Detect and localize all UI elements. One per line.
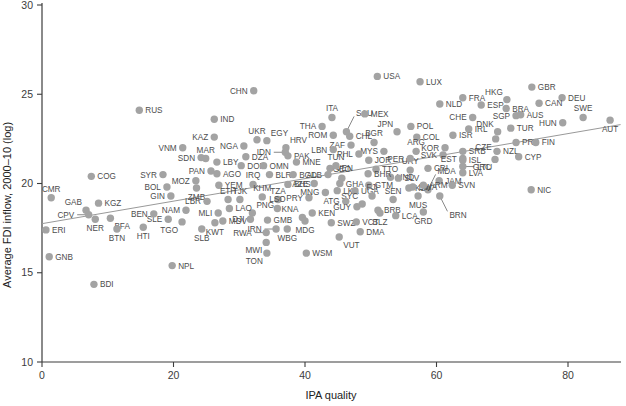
data-point-nzl [493, 148, 500, 155]
data-point-kaz [211, 133, 218, 140]
data-point-blr [266, 171, 273, 178]
data-point-can [535, 99, 542, 106]
country-label-dji: DJI [232, 215, 244, 224]
country-label-moz: MOZ [172, 177, 190, 186]
data-point-guy [353, 203, 360, 210]
data-point-pol [407, 123, 414, 130]
country-label-bhs: BHS [294, 180, 311, 189]
y-tick-label: 30 [21, 0, 33, 11]
data-point-cmr [48, 194, 55, 201]
data-point-phl [355, 150, 362, 157]
data-point-syr [159, 171, 166, 178]
country-label-lao: LAO [235, 204, 251, 213]
data-point-isl [459, 157, 466, 164]
data-point-lux [416, 78, 423, 85]
country-label-lux: LUX [426, 78, 442, 87]
data-point-bhr [364, 170, 371, 177]
country-label-fra: FRA [469, 94, 486, 103]
data-point-bgd [289, 171, 296, 178]
data-point-gnb [46, 253, 53, 260]
data-point-alb [324, 171, 331, 178]
x-tick-label: 40 [299, 369, 311, 381]
country-label-isr: ISR [459, 131, 473, 140]
country-label-egy: EGY [271, 129, 289, 138]
data-point-mwi [263, 239, 270, 246]
data-point-nld [436, 100, 443, 107]
country-label-est: EST [441, 155, 457, 164]
data-point-eth [224, 196, 231, 203]
country-label-kgz: KGZ [105, 199, 122, 208]
x-axis-title: IPA quality [305, 389, 357, 401]
country-label-sgp: SGP [493, 112, 511, 121]
country-label-blz: BLZ [372, 218, 387, 227]
scatter-chart-figure: 1015202530020406080 ERIGNBCMRGABCPVCOGKG… [0, 0, 626, 406]
data-point-cze [492, 135, 499, 142]
country-label-cpv: CPV [57, 211, 74, 220]
data-point-fin [532, 139, 539, 146]
country-label-pan: PAN [189, 167, 205, 176]
y-tick-label: 25 [21, 88, 33, 100]
country-label-gnb: GNB [55, 253, 73, 262]
country-label-tza: TZA [270, 187, 286, 196]
country-label-hrv: HRV [290, 136, 308, 145]
data-point-ury [407, 166, 414, 173]
data-point-grc [491, 156, 498, 163]
data-point-hrv [282, 144, 289, 151]
country-label-cog: COG [97, 172, 116, 181]
country-label-phl: PHL [337, 150, 353, 159]
country-label-pol: POL [417, 122, 434, 131]
country-label-kor: KOR [421, 144, 439, 153]
country-label-mne: MNE [302, 158, 321, 167]
country-label-hti: HTI [137, 232, 150, 241]
country-label-cri: CRI [434, 164, 448, 173]
country-label-mex: MEX [371, 110, 389, 119]
country-label-wbg: WBG [277, 234, 297, 243]
data-point-ind [211, 116, 218, 123]
data-point-gmb [264, 216, 271, 223]
data-point-mex [361, 110, 368, 117]
x-tick-label: 60 [431, 369, 443, 381]
x-tick-label: 20 [168, 369, 180, 381]
country-label-khm: KHM [253, 184, 271, 193]
country-label-jpn: JPN [378, 120, 394, 129]
country-label-aut: AUT [602, 125, 618, 134]
country-label-rus: RUS [145, 106, 163, 115]
data-point-tun [332, 162, 339, 169]
country-label-ton: TON [246, 257, 263, 266]
data-point-dnk [494, 128, 501, 135]
country-label-slv: SLV [404, 174, 419, 183]
country-label-mdg: MDG [295, 226, 314, 235]
fdi-ipa-scatter-plot: 1015202530020406080 ERIGNBCMRGABCPVCOGKG… [0, 0, 626, 406]
data-point-isr [449, 132, 456, 139]
data-point-slv [395, 174, 402, 181]
data-point-egy [263, 137, 270, 144]
data-point-mdv [219, 217, 226, 224]
country-label-omn: OMN [270, 162, 289, 171]
country-label-guy: GUY [333, 203, 351, 212]
data-point-kor [441, 144, 448, 151]
y-tick-label: 10 [21, 356, 33, 368]
country-label-btn: BTN [109, 234, 125, 243]
data-point-lbn [330, 146, 337, 153]
data-point-svn [449, 182, 456, 189]
country-label-swz: SWZ [337, 219, 355, 228]
data-point-vut [335, 233, 342, 240]
country-label-ukr: UKR [248, 127, 265, 136]
country-label-sdn: SDN [178, 154, 195, 163]
data-point-nic [527, 186, 534, 193]
country-label-srb: SRB [469, 147, 486, 156]
data-point-ita [328, 114, 335, 121]
country-label-kaz: KAZ [192, 133, 208, 142]
data-point-rus [136, 107, 143, 114]
country-label-nga: NGA [220, 142, 238, 151]
data-point-lka [334, 187, 341, 194]
country-label-tgo: TGO [160, 226, 178, 235]
country-label-mwi: MWI [245, 246, 262, 255]
data-point-swe [579, 114, 586, 121]
data-point-hti [140, 224, 147, 231]
country-label-sen: SEN [385, 187, 402, 196]
data-point-nam [182, 207, 189, 214]
country-label-kwt: KWT [206, 228, 224, 237]
country-label-grc: GRC [473, 163, 491, 172]
country-label-dma: DMA [366, 228, 385, 237]
